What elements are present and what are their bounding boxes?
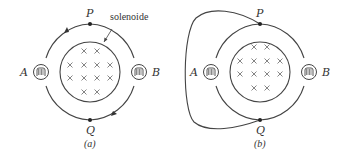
node-p-a: [88, 22, 92, 26]
label-q-a: Q: [86, 124, 95, 137]
solenoid-a: [60, 42, 120, 102]
field-crosses-b: [238, 45, 283, 91]
caption-b: (b): [254, 138, 266, 150]
label-p-a: P: [85, 7, 94, 20]
diagram-canvas: P Q A B solenoide (a) P Q A B (b): [0, 0, 348, 150]
bulb-a-icon: [34, 65, 49, 80]
bulb-b-icon: [302, 65, 317, 80]
outer-loop-b: [216, 24, 304, 120]
node-q-b: [258, 118, 262, 122]
bulb-a-icon: [204, 65, 219, 80]
field-crosses-a: [68, 49, 113, 95]
caption-a: (a): [84, 138, 96, 150]
figure-b: P Q A B (b): [185, 7, 330, 150]
label-b-a: B: [151, 66, 160, 79]
solenoid-b: [230, 42, 290, 102]
outer-loop-a: [46, 24, 134, 120]
bulb-b-icon: [132, 65, 147, 80]
label-q-b: Q: [256, 124, 265, 137]
node-p-b: [258, 22, 262, 26]
figure-a: P Q A B solenoide (a): [19, 7, 160, 150]
label-a-b: A: [189, 66, 198, 79]
label-a-a: A: [19, 66, 28, 79]
node-q-a: [88, 118, 92, 122]
solenoid-annotation: solenoide: [110, 11, 149, 22]
leader-arrow-icon: [104, 38, 108, 43]
label-b-b: B: [321, 66, 330, 79]
label-p-b: P: [255, 7, 264, 20]
